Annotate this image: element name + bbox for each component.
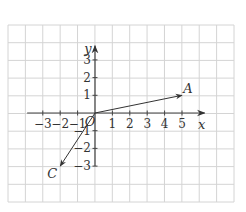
x-tick-label: 1: [109, 117, 117, 131]
axes: [27, 46, 204, 166]
x-tick-label: 2: [126, 117, 134, 131]
coordinate-plane: −3−2−112345−3−2−1123xyOAC: [0, 0, 246, 212]
y-tick-label: −3: [73, 159, 91, 173]
y-tick-label: 1: [83, 88, 91, 102]
x-tick-label: 3: [143, 117, 151, 131]
x-tick-label: −3: [34, 117, 52, 131]
origin-label: O: [85, 114, 96, 129]
x-tick-label: 5: [178, 117, 186, 131]
y-axis-label: y: [83, 41, 92, 56]
vector-a: [95, 95, 182, 113]
x-axis-label: x: [198, 117, 206, 132]
point-label-a: A: [182, 81, 192, 96]
coordinate-diagram: −3−2−112345−3−2−1123xyOAC: [0, 0, 246, 212]
x-tick-label: 4: [161, 117, 169, 131]
point-label-c: C: [47, 166, 57, 181]
y-tick-label: 2: [83, 71, 91, 85]
y-tick-label: −2: [73, 141, 91, 155]
x-tick-label: −2: [51, 117, 69, 131]
